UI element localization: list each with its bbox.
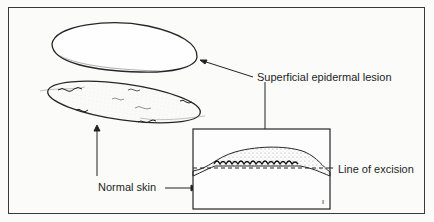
illustration: ǁ [0, 0, 434, 222]
svg-text:ǁ: ǁ [322, 199, 324, 205]
lifted-lesion-shape [52, 23, 197, 72]
label-normal-skin: Normal skin [98, 181, 156, 193]
cross-section-inset: ǁ [193, 129, 330, 209]
label-line-of-excision: Line of excision [338, 163, 414, 175]
excision-site-ellipse [40, 73, 205, 130]
label-superficial-epidermal-lesion: Superficial epidermal lesion [257, 71, 392, 83]
